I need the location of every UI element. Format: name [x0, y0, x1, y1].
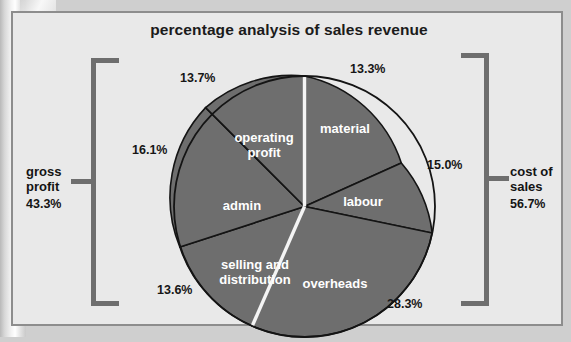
slice-label-selling-and-distribution-line1: selling and: [221, 257, 289, 272]
bracket-cost-of-sales-bottom-arm: [461, 301, 489, 306]
slice-label-material: material: [320, 121, 370, 136]
chart-title: percentage analysis of sales revenue: [13, 21, 565, 39]
bracket-label-gross-profit-line1: gross: [26, 164, 61, 179]
pct-label-operating: 13.7%: [180, 71, 215, 85]
slice-label-operating-profit-line2: profit: [247, 145, 281, 160]
bracket-label-cost-of-sales: cost of sales 56.7%: [510, 165, 553, 211]
slice-label-admin: admin: [223, 198, 261, 213]
pct-label-material: 13.3%: [350, 62, 385, 76]
bracket-label-cost-of-sales-line2: sales: [510, 179, 543, 194]
bracket-cost-of-sales-stub: [487, 176, 509, 181]
pct-label-admin: 16.1%: [132, 143, 167, 157]
bracket-cost-of-sales: [461, 53, 489, 306]
bracket-gross-profit: [91, 58, 119, 306]
bracket-label-gross-profit-line2: profit: [26, 179, 59, 194]
bracket-value-cost-of-sales: 56.7%: [510, 197, 553, 212]
slice-label-overheads: overheads: [302, 276, 367, 291]
bracket-label-gross-profit: gross profit 43.3%: [26, 165, 61, 211]
chart-frame: percentage analysis of sales revenue mat…: [11, 11, 563, 326]
pct-label-labour: 15.0%: [427, 158, 462, 172]
pct-label-overheads: 28.3%: [387, 297, 422, 311]
pct-label-selling: 13.6%: [157, 283, 192, 297]
bracket-label-cost-of-sales-line1: cost of: [510, 164, 553, 179]
bracket-gross-profit-bottom-arm: [91, 301, 119, 306]
slice-label-operating-profit-line1: operating: [234, 130, 293, 145]
bracket-value-gross-profit: 43.3%: [26, 197, 61, 212]
slice-label-labour: labour: [343, 194, 383, 209]
bracket-gross-profit-stub: [71, 179, 93, 184]
slice-label-selling-and-distribution-line2: distribution: [219, 272, 291, 287]
